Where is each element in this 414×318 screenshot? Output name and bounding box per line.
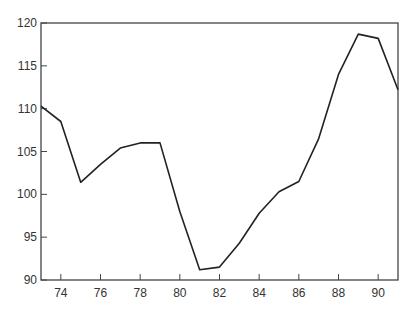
y-tick-label: 120 — [17, 16, 37, 30]
y-tick-label: 115 — [18, 59, 37, 73]
y-tick-label: 95 — [24, 230, 38, 244]
line-chart: 9095100105110115120 747678808284868890 — [0, 0, 414, 318]
x-tick-label: 76 — [94, 286, 108, 300]
y-tick-label: 105 — [17, 145, 37, 159]
x-tick-label: 84 — [252, 286, 266, 300]
x-tick-label: 82 — [213, 286, 227, 300]
x-tick-label: 90 — [371, 286, 385, 300]
y-tick-label: 100 — [17, 187, 37, 201]
x-tick-label: 78 — [133, 286, 147, 300]
y-tick-label: 110 — [18, 102, 37, 116]
x-tick-label: 74 — [54, 286, 68, 300]
x-tick-label: 88 — [332, 286, 346, 300]
x-tick-label: 80 — [173, 286, 187, 300]
y-tick-label: 90 — [24, 273, 38, 287]
x-tick-label: 86 — [292, 286, 306, 300]
